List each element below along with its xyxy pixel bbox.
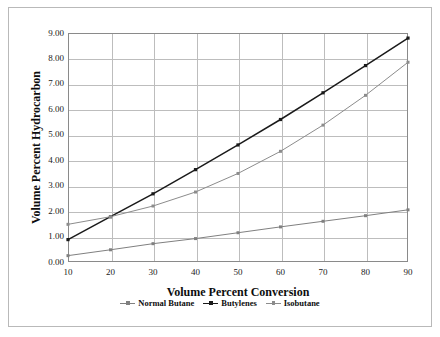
series-line xyxy=(68,62,408,224)
x-tick-label: 80 xyxy=(351,268,381,277)
y-tick-label: 2.00 xyxy=(30,207,64,216)
data-point-marker xyxy=(236,143,239,146)
data-point-marker xyxy=(322,124,325,127)
data-point-marker xyxy=(109,248,112,251)
y-tick-label: 4.00 xyxy=(30,156,64,165)
data-point-marker xyxy=(194,168,197,171)
data-point-marker xyxy=(407,61,410,64)
chart-container: Volume Percent Hydrocarbon 0.001.002.003… xyxy=(0,0,440,337)
x-tick-label: 20 xyxy=(96,268,126,277)
y-tick-label: 8.00 xyxy=(30,54,64,63)
chart-legend: Normal ButaneButylenesIsobutane xyxy=(0,298,440,308)
x-tick-label: 60 xyxy=(266,268,296,277)
x-axis-tick-labels: 102030405060708090 xyxy=(68,268,408,282)
chart-series-layer xyxy=(68,33,408,262)
data-point-marker xyxy=(364,214,367,217)
legend-item-normal-butane[interactable]: Normal Butane xyxy=(120,298,194,308)
legend-item-label: Butylenes xyxy=(221,298,256,308)
series-isobutane xyxy=(67,61,410,226)
x-tick-label: 10 xyxy=(53,268,83,277)
y-tick-label: 9.00 xyxy=(30,29,64,38)
series-line xyxy=(68,38,408,240)
chart-page: Volume Percent Hydrocarbon 0.001.002.003… xyxy=(0,0,440,337)
x-tick-label: 40 xyxy=(181,268,211,277)
x-tick-label: 90 xyxy=(393,268,423,277)
legend-item-isobutane[interactable]: Isobutane xyxy=(266,298,320,308)
y-axis-tick-labels: 0.001.002.003.004.005.006.007.008.009.00 xyxy=(26,33,64,262)
y-tick-label: 0.00 xyxy=(30,258,64,267)
x-tick-label: 70 xyxy=(308,268,338,277)
data-point-marker xyxy=(279,150,282,153)
data-point-marker xyxy=(194,191,197,194)
data-point-marker xyxy=(279,118,282,121)
data-point-marker xyxy=(237,172,240,175)
y-tick-label: 7.00 xyxy=(30,79,64,88)
data-point-marker xyxy=(322,220,325,223)
data-point-marker xyxy=(67,223,70,226)
data-point-marker xyxy=(109,215,112,218)
data-point-marker xyxy=(321,91,324,94)
legend-marker-icon xyxy=(203,299,218,307)
y-tick-label: 1.00 xyxy=(30,232,64,241)
data-point-marker xyxy=(194,237,197,240)
data-point-marker xyxy=(406,36,409,39)
legend-item-butylenes[interactable]: Butylenes xyxy=(203,298,256,308)
data-point-marker xyxy=(364,64,367,67)
series-normal-butane xyxy=(67,208,410,257)
data-point-marker xyxy=(407,208,410,211)
data-point-marker xyxy=(67,254,70,257)
data-point-marker xyxy=(152,205,155,208)
legend-marker-icon xyxy=(266,299,281,307)
legend-item-label: Isobutane xyxy=(284,298,320,308)
x-tick-label: 30 xyxy=(138,268,168,277)
data-point-marker xyxy=(66,238,69,241)
legend-marker-icon xyxy=(120,299,135,307)
legend-item-label: Normal Butane xyxy=(138,298,194,308)
data-point-marker xyxy=(151,192,154,195)
data-point-marker xyxy=(152,242,155,245)
x-tick-label: 50 xyxy=(223,268,253,277)
y-tick-label: 6.00 xyxy=(30,105,64,114)
data-point-marker xyxy=(237,231,240,234)
y-tick-label: 3.00 xyxy=(30,181,64,190)
y-tick-label: 5.00 xyxy=(30,130,64,139)
series-butylenes xyxy=(66,36,409,241)
data-point-marker xyxy=(364,94,367,97)
data-point-marker xyxy=(279,225,282,228)
